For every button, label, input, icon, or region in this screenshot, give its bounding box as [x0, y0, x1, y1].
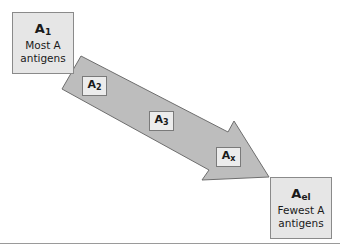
box-a1-most-antigens: A1 Most A antigens [12, 12, 74, 74]
box-ael-fewest-antigens: Ael Fewest A antigens [270, 177, 332, 239]
label-a2: A2 [87, 79, 101, 94]
box-a2: A2 [82, 76, 107, 96]
bottom-divider [0, 243, 340, 244]
desc-ael-line1: Fewest A [277, 204, 324, 217]
desc-ael-line2: antigens [278, 217, 323, 230]
box-a3: A3 [149, 111, 174, 131]
desc-a1-line2: antigens [20, 52, 65, 65]
label-ax: Ax [222, 150, 236, 165]
label-ael: Ael [291, 187, 310, 204]
desc-a1-line1: Most A [25, 39, 61, 52]
box-ax: Ax [216, 147, 241, 167]
label-a3: A3 [154, 114, 168, 129]
label-a1: A1 [35, 22, 51, 39]
